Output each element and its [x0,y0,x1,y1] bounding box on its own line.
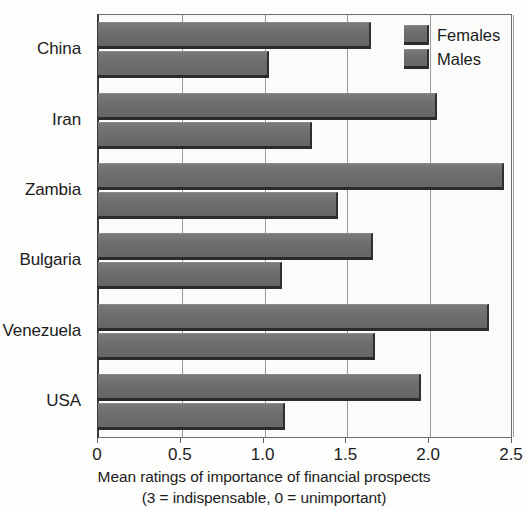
x-tick-label-1.5: 1.5 [334,445,358,465]
bar-usa-females [98,374,421,401]
legend-item-males: Males [404,49,500,69]
x-tick-mark-2.5 [511,438,512,443]
x-tick-mark-0.5 [180,438,181,443]
legend-label-males: Males [437,50,481,69]
x-axis-title-line2: (3 = indispensable, 0 = unimportant) [0,489,528,507]
bar-bulgaria-males [98,262,282,289]
y-axis-category-labels: ChinaIranZambiaBulgariaVenezuelaUSA [0,14,90,438]
bar-china-females [98,22,371,49]
bar-china-males [98,51,269,78]
x-tick-label-2.0: 2.0 [416,445,440,465]
x-tick-label-2.5: 2.5 [499,445,523,465]
legend-swatch-females [404,25,429,45]
y-axis-label-venezuela: Venezuela [2,321,81,341]
x-tick-label-0.5: 0.5 [168,445,192,465]
bar-bulgaria-females [98,233,373,260]
x-tick-label-1.0: 1.0 [251,445,275,465]
y-axis-label-iran: Iran [52,110,81,130]
legend-label-females: Females [437,26,500,45]
legend-item-females: Females [404,25,500,45]
y-axis-label-bulgaria: Bulgaria [19,250,81,270]
chart-legend: FemalesMales [404,25,500,69]
x-axis-tick-labels: 00.51.01.52.02.5 [0,445,528,469]
legend-swatch-males [404,49,429,69]
x-tick-mark-0 [97,438,98,443]
x-tick-mark-1.5 [345,438,346,443]
bar-venezuela-females [98,304,489,331]
bar-zambia-males [98,192,338,219]
bar-chart-figure: ChinaIranZambiaBulgariaVenezuelaUSA 00.5… [0,0,528,510]
x-tick-mark-1.0 [263,438,264,443]
y-axis-label-usa: USA [46,391,81,411]
y-axis-label-zambia: Zambia [25,180,81,200]
bar-zambia-females [98,163,504,190]
gridline-2.5 [513,15,514,437]
bar-venezuela-males [98,333,375,360]
y-axis-label-china: China [37,39,81,59]
x-tick-mark-2.0 [428,438,429,443]
x-tick-label-0: 0 [92,445,101,465]
bar-iran-males [98,122,312,149]
x-axis-title-line1: Mean ratings of importance of financial … [0,468,528,486]
bar-usa-males [98,403,285,430]
bar-iran-females [98,93,437,120]
bars-layer [98,15,511,437]
